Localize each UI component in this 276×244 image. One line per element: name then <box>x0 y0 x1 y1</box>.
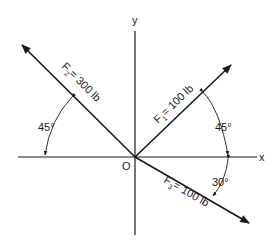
force-f1-arrow <box>135 65 231 157</box>
svg-text:F3= 100 lb: F3= 100 lb <box>161 173 211 210</box>
y-axis-label: y <box>132 14 138 26</box>
x-axis-label: x <box>259 151 265 163</box>
angle-label-f3: 30° <box>212 176 229 188</box>
force-diagram: x y O F1= 100 lb F2= 300 lb F3= 100 lb 4… <box>0 0 276 244</box>
origin-label: O <box>122 160 131 172</box>
force-f2-arrow <box>22 45 135 157</box>
angle-label-f2: 45° <box>38 121 55 133</box>
svg-text:F2= 300 lb: F2= 300 lb <box>58 60 103 105</box>
force-f3-label: F3= 100 lb <box>161 173 211 210</box>
force-f2-label: F2= 300 lb <box>58 60 103 105</box>
angle-label-f1: 45° <box>215 121 232 133</box>
